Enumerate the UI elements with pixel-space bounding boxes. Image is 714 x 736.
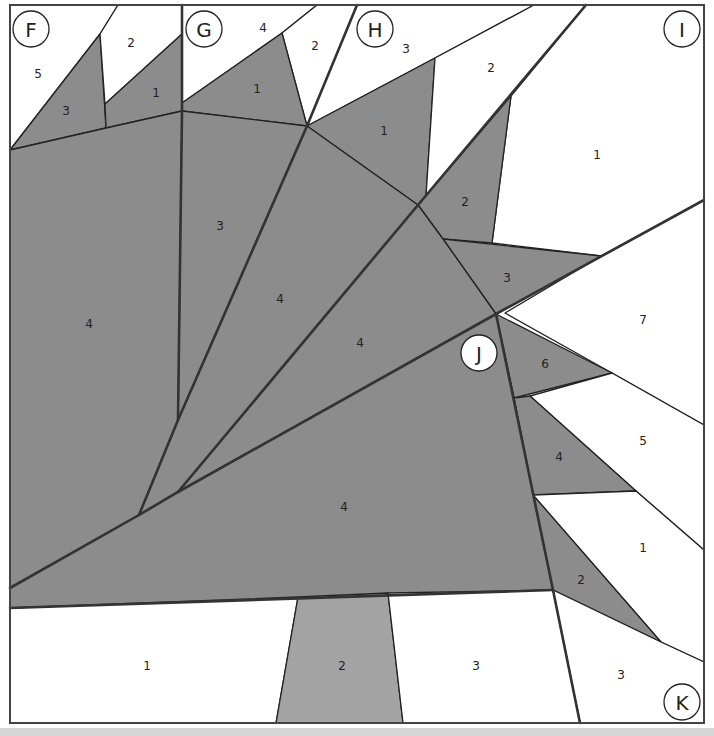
section-marker-j: J — [461, 335, 497, 371]
piece-number: 2 — [127, 36, 135, 50]
section-label: I — [679, 18, 685, 42]
section-label: J — [474, 342, 482, 366]
piece-number: 4 — [340, 500, 348, 514]
piece-number: 4 — [356, 336, 364, 350]
piece-number: 2 — [577, 573, 585, 587]
piece-bottom-2 — [276, 593, 403, 723]
pattern-pieces — [10, 5, 704, 723]
section-marker-f: F — [13, 11, 49, 47]
piece-number: 3 — [472, 659, 480, 673]
piece-number: 2 — [487, 61, 495, 75]
section-label: K — [675, 691, 689, 715]
piece-number: 3 — [62, 104, 70, 118]
piece-number: 6 — [541, 357, 549, 371]
piece-number: 4 — [555, 450, 563, 464]
piece-number: 4 — [259, 21, 267, 35]
piece-number: 7 — [639, 313, 647, 327]
section-marker-h: H — [357, 11, 393, 47]
section-label: H — [367, 18, 382, 42]
section-label: F — [25, 18, 37, 42]
piece-number: 5 — [34, 67, 42, 81]
piece-bottom-1 — [10, 597, 298, 723]
piece-number: 1 — [152, 86, 160, 100]
section-marker-i: I — [664, 11, 700, 47]
piece-number: 2 — [311, 39, 319, 53]
piece-number: 1 — [593, 148, 601, 162]
piece-number: 2 — [461, 195, 469, 209]
section-marker-k: K — [664, 684, 700, 720]
piece-number: 3 — [617, 668, 625, 682]
piece-number: 1 — [253, 82, 261, 96]
section-marker-g: G — [186, 11, 222, 47]
section-label: G — [196, 18, 212, 42]
piece-number: 1 — [639, 541, 647, 555]
piece-number: 3 — [216, 219, 224, 233]
bottom-edge-bar — [0, 728, 714, 736]
piece-number: 3 — [402, 42, 410, 56]
piece-number: 3 — [503, 271, 511, 285]
piece-bottom-3 — [388, 590, 580, 723]
paper-piecing-pattern: 5321421312123765412343444123 FGHIJK — [0, 0, 714, 736]
piece-number: 1 — [143, 659, 151, 673]
piece-number: 2 — [338, 659, 346, 673]
piece-number: 5 — [639, 434, 647, 448]
piece-number: 4 — [276, 292, 284, 306]
piece-number: 4 — [85, 317, 93, 331]
piece-number: 1 — [380, 124, 388, 138]
